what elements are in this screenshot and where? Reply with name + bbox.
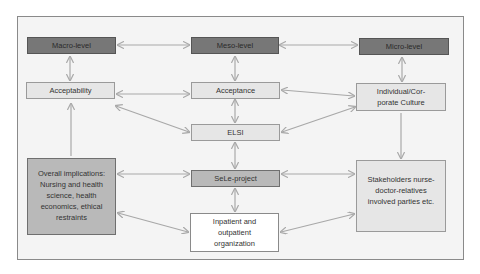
node-overall-implications-label: Overall implications: Nursing and health… — [34, 168, 109, 223]
node-stakeholders: Stakeholders nurse-doctor-relatives invo… — [356, 160, 446, 232]
node-inpatient-outpatient-label: Inpatient and outpatient organization — [205, 216, 264, 249]
node-sele-project: SeLe-project — [191, 170, 280, 187]
arrow-acceptance-culture — [282, 90, 354, 96]
arrow-inpatient-stakeholders — [281, 214, 354, 232]
arrow-culture-elsi — [282, 107, 355, 132]
node-macro-level-label: Macro-level — [52, 40, 91, 51]
node-stakeholders-label: Stakeholders nurse-doctor-relatives invo… — [365, 174, 437, 207]
arrow-acceptability-elsi — [116, 106, 189, 132]
node-elsi: ELSI — [191, 124, 280, 141]
node-acceptance: Acceptance — [191, 82, 280, 99]
node-sele-project-label: SeLe-project — [214, 173, 257, 184]
node-culture: Individual/Cor-porate Culture — [356, 83, 446, 111]
node-meso-level: Meso-level — [191, 37, 279, 54]
node-acceptability: Acceptability — [26, 82, 115, 99]
node-micro-level-label: Micro-level — [386, 41, 422, 52]
node-acceptability-label: Acceptability — [49, 85, 91, 96]
node-macro-level: Macro-level — [27, 37, 116, 54]
node-inpatient-outpatient: Inpatient and outpatient organization — [190, 213, 279, 252]
node-culture-label: Individual/Cor-porate Culture — [367, 86, 435, 108]
node-acceptance-label: Acceptance — [216, 85, 255, 96]
arrow-overall-inpatient — [118, 213, 188, 232]
node-micro-level: Micro-level — [359, 38, 449, 55]
node-overall-implications: Overall implications: Nursing and health… — [27, 158, 116, 235]
node-meso-level-label: Meso-level — [217, 40, 253, 51]
node-elsi-label: ELSI — [227, 127, 243, 138]
